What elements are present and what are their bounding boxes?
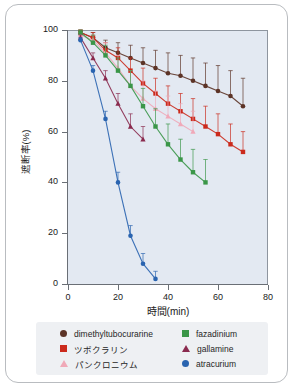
legend-item[interactable]: dimethyltubocurarine	[60, 326, 153, 341]
x-tick-mark	[218, 285, 219, 290]
x-tick-label: 0	[53, 292, 83, 302]
legend-marker-square-icon	[182, 330, 189, 337]
legend-label: ツボクラリン	[74, 343, 128, 355]
legend-marker-triangle-icon	[60, 360, 68, 367]
x-tick-mark	[268, 285, 269, 290]
x-axis-title: 時間(min)	[68, 303, 268, 318]
legend-item[interactable]: ツボクラリン	[60, 341, 153, 356]
legend-item[interactable]: パンクロニウム	[60, 356, 153, 371]
x-tick-label: 40	[153, 292, 183, 302]
legend-column-left: dimethyltubocurarineツボクラリンパンクロニウム	[60, 326, 153, 371]
y-tick-mark	[62, 132, 67, 133]
legend-label: パンクロニウム	[75, 358, 138, 370]
x-tick-mark	[118, 285, 119, 290]
legend-column-right: fazadiniumgallamineatracurium	[182, 326, 237, 371]
legend-marker-circle-icon	[60, 330, 67, 337]
legend-label: gallamine	[197, 344, 233, 354]
legend-item[interactable]: fazadinium	[182, 326, 237, 341]
figure-card: 020406080100 020406080 遮断率(%) 時間(min) di…	[5, 4, 288, 383]
legend-marker-square-icon	[60, 345, 67, 352]
legend-marker-triangle-icon	[182, 345, 190, 352]
y-axis-title: 遮断率(%)	[18, 107, 32, 197]
y-tick-label: 20	[6, 227, 58, 237]
legend-label: dimethyltubocurarine	[74, 329, 153, 339]
legend-label: atracurium	[196, 359, 236, 369]
x-tick-mark	[168, 285, 169, 290]
x-tick-label: 20	[103, 292, 133, 302]
x-tick-mark	[68, 285, 69, 290]
y-tick-mark	[62, 182, 67, 183]
y-tick-mark	[62, 81, 67, 82]
plot-area	[68, 30, 268, 284]
legend-item[interactable]: atracurium	[182, 356, 237, 371]
y-tick-label: 0	[6, 278, 58, 288]
legend-label: fazadinium	[196, 329, 237, 339]
y-tick-label: 40	[6, 176, 58, 186]
y-axis-line	[67, 30, 68, 285]
chart-legend: dimethyltubocurarineツボクラリンパンクロニウム fazadi…	[36, 322, 268, 375]
x-tick-label: 60	[203, 292, 233, 302]
legend-item[interactable]: gallamine	[182, 341, 237, 356]
y-tick-label: 80	[6, 75, 58, 85]
y-tick-mark	[62, 233, 67, 234]
y-tick-mark	[62, 30, 67, 31]
y-tick-label: 60	[6, 126, 58, 136]
y-tick-label: 100	[6, 24, 58, 34]
y-tick-mark	[62, 284, 67, 285]
legend-marker-circle-icon	[182, 360, 189, 367]
x-tick-label: 80	[253, 292, 283, 302]
